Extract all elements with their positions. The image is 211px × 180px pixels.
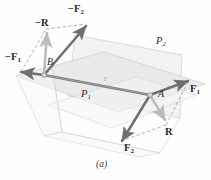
label-f2: F2 <box>124 143 134 155</box>
label-plane-p1: P1 <box>81 89 91 101</box>
figure-container: −F1 −F2 −R F1 F2 R B A P1 P2 Γ (a) <box>0 0 211 180</box>
point-b-dot <box>42 73 47 78</box>
label-r: R <box>165 127 173 138</box>
label-point-a: A <box>158 89 164 99</box>
label-plane-p2: P2 <box>156 36 166 48</box>
label-neg-f1: −F1 <box>5 52 21 64</box>
force-parallelogram-diagram <box>0 0 211 180</box>
label-neg-f2: −F2 <box>68 4 84 16</box>
label-neg-r: −R <box>35 18 49 29</box>
label-f1: F1 <box>190 84 200 96</box>
label-intersection: Γ <box>104 76 107 82</box>
plane-p1-lower-edge <box>44 132 160 157</box>
point-a-dot <box>148 93 153 98</box>
label-point-b: B <box>47 57 53 67</box>
figure-caption: (a) <box>96 160 107 170</box>
